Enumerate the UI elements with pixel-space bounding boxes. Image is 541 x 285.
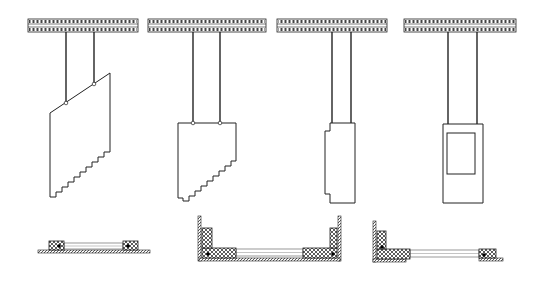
track-top-ticks (149, 20, 265, 23)
glazed-door-panel (443, 32, 483, 203)
ceiling-track-3 (277, 19, 387, 32)
panel-outline (178, 123, 236, 201)
floor-base (373, 259, 406, 262)
stair-panel-slanted (50, 32, 110, 197)
floor-sections (38, 216, 503, 262)
insulation-block (479, 249, 496, 258)
glass-window (447, 133, 475, 174)
pivot-joint-icon (191, 121, 195, 125)
track-bottom-ticks (29, 28, 137, 31)
seal-dot-icon (206, 252, 210, 256)
floor-base-tail (479, 258, 503, 261)
insulation-block (330, 228, 337, 248)
section-straight (38, 241, 150, 253)
diagram-svg (0, 0, 541, 285)
panel-outline (325, 123, 355, 203)
wall-section (373, 221, 376, 262)
pivot-joint-icon (218, 121, 222, 125)
seal-dot-icon (57, 244, 61, 248)
insulation-block (123, 241, 138, 250)
stair-panel-flat-top (178, 32, 236, 201)
track-bottom-ticks (278, 28, 386, 31)
seal-dot-icon (126, 244, 130, 248)
track-top-ticks (29, 20, 137, 23)
track-bottom-ticks (405, 28, 515, 31)
panel-outline (50, 73, 110, 197)
seal-dot-icon (380, 245, 384, 249)
track-top-ticks (405, 20, 515, 23)
ceiling-track-1 (28, 19, 138, 32)
wall-section (198, 216, 201, 261)
section-l-shape (373, 221, 503, 262)
pivot-joint-icon (92, 82, 96, 86)
sliding-partition-diagram (0, 0, 541, 285)
floor-base (38, 250, 150, 253)
wall-section (338, 216, 341, 261)
seal-dot-icon (331, 252, 335, 256)
ceiling-track-2 (148, 19, 266, 32)
insulation-block (377, 249, 410, 259)
seal-dot-icon (482, 253, 486, 257)
section-u-shape (198, 216, 341, 261)
track-top-ticks (278, 20, 386, 23)
track-bottom-ticks (149, 28, 265, 31)
pivot-joint-icon (64, 101, 68, 105)
insulation-block (202, 228, 212, 248)
hanging-panels (50, 32, 483, 203)
insulation-block (49, 241, 64, 250)
narrow-door-panel (325, 32, 355, 203)
floor-base (199, 258, 340, 261)
ceiling-tracks (28, 19, 516, 32)
ceiling-track-4 (404, 19, 516, 32)
